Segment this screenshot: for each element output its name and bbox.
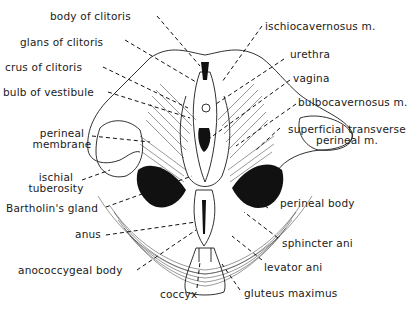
label-superficial-transverse-line2: perineal m. <box>282 135 412 146</box>
label-perineal-membrane-line2: membrane <box>32 139 92 150</box>
label-urethra: urethra <box>290 49 330 60</box>
label-ischial-tuberosity: ischial tuberosity <box>26 172 86 194</box>
label-perineal-body: perineal body <box>280 198 355 209</box>
label-vagina: vagina <box>293 73 330 84</box>
label-crus-of-clitoris: crus of clitoris <box>5 62 82 73</box>
label-levator-ani: levator ani <box>264 262 322 273</box>
label-superficial-transverse-perineal: superficial transverse perineal m. <box>282 124 412 146</box>
label-bulb-of-vestibule: bulb of vestibule <box>3 87 94 98</box>
label-coccyx: coccyx <box>160 289 197 300</box>
label-bartholins-gland: Bartholin's gland <box>6 203 98 214</box>
label-perineal-membrane: perineal membrane <box>32 128 92 150</box>
anatomy-diagram: body of clitoris glans of clitoris crus … <box>0 0 415 311</box>
label-bulbocavernosus: bulbocavernosus m. <box>298 97 408 108</box>
label-anus: anus <box>75 229 101 240</box>
label-sphincter-ani: sphincter ani <box>282 238 353 249</box>
label-gluteus-maximus: gluteus maximus <box>244 288 337 299</box>
label-anococcygeal-body: anococcygeal body <box>18 265 123 276</box>
label-ischial-tuberosity-line2: tuberosity <box>26 183 86 194</box>
label-glans-of-clitoris: glans of clitoris <box>20 37 103 48</box>
label-ischiocavernosus: ischiocavernosus m. <box>265 21 376 32</box>
label-body-of-clitoris: body of clitoris <box>50 11 131 22</box>
